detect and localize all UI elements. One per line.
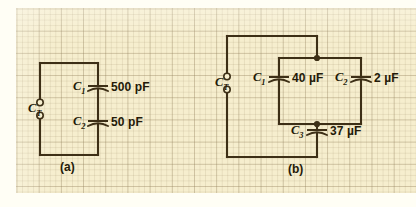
caption-a: (a) [60,161,75,173]
caption-b: (b) [288,163,303,175]
circuit-svg [0,0,416,207]
label-b-c2-name: C2 [335,71,348,86]
label-b-c3-name: C3 [291,124,304,139]
label-b-c2-value: 2 µF [374,72,399,84]
label-a-ct: CT [28,102,42,117]
junction-nodes-b [314,55,320,127]
label-a-c1-value: 500 pF [111,81,150,93]
label-b-c1-name: C1 [253,71,266,86]
label-b-ct: CT [215,76,229,91]
label-a-c2-value: 50 pF [111,116,143,128]
label-a-c1-name: C1 [73,80,86,95]
circuit-a-wires [40,63,98,155]
label-a-c2-name: C2 [73,115,86,130]
label-b-c3-value: 37 µF [330,125,361,137]
figure-root: C1 500 pF C2 50 pF CT (a) C1 40 µF C2 2 … [0,0,416,207]
label-b-c1-value: 40 µF [292,72,323,84]
